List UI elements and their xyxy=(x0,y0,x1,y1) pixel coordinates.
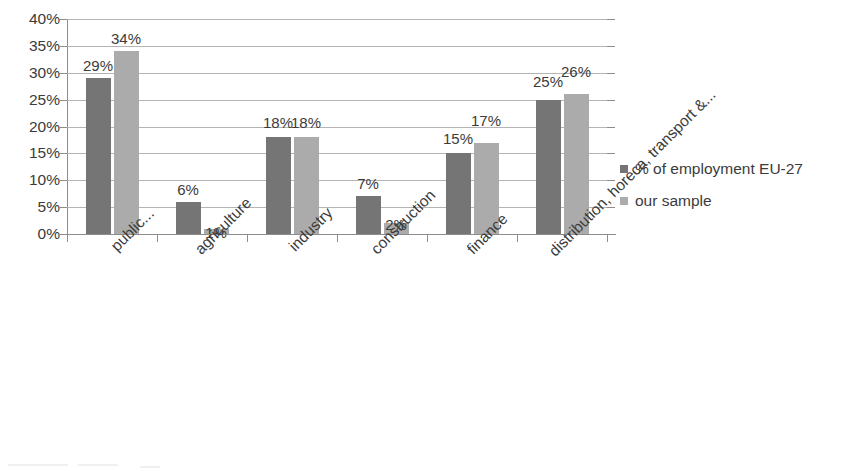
y-axis-tick-right xyxy=(607,73,615,74)
bar-data-label: 18% xyxy=(263,115,293,130)
plot-area: 29%34%6%1%18%18%7%2%15%17%25%26% xyxy=(67,19,607,234)
bar-data-label: 15% xyxy=(443,131,473,146)
x-axis-tick xyxy=(247,234,248,242)
y-axis-tick-label: 10% xyxy=(4,173,60,189)
y-axis-tick-right xyxy=(607,127,615,128)
scan-artifact xyxy=(140,466,160,468)
bar xyxy=(114,51,139,234)
y-axis-tick xyxy=(59,46,67,47)
bar xyxy=(176,202,201,234)
legend-label: our sample xyxy=(635,193,712,209)
y-axis-tick-label: 30% xyxy=(4,65,60,81)
bar-data-label: 18% xyxy=(291,115,321,130)
y-axis-tick xyxy=(59,180,67,181)
x-axis-tick xyxy=(607,234,608,242)
x-axis-tick xyxy=(337,234,338,242)
bar-data-label: 6% xyxy=(177,182,199,197)
y-axis-tick-right xyxy=(607,100,615,101)
y-axis-tick-label: 40% xyxy=(4,11,60,27)
bar-data-label: 29% xyxy=(83,58,113,73)
scan-artifact xyxy=(78,464,118,466)
x-axis-tick xyxy=(517,234,518,242)
y-axis-tick-label: 20% xyxy=(4,119,60,135)
bar-data-label: 7% xyxy=(357,176,379,191)
legend-swatch-icon xyxy=(620,165,628,173)
y-axis-tick xyxy=(59,73,67,74)
x-axis-tick xyxy=(427,234,428,242)
y-axis-tick-label: 15% xyxy=(4,146,60,162)
x-axis-tick xyxy=(67,234,68,242)
y-axis-tick-label: 5% xyxy=(4,199,60,215)
gridline xyxy=(67,19,607,20)
y-axis-tick-label: 35% xyxy=(4,38,60,54)
y-axis-tick-right xyxy=(607,46,615,47)
gridline xyxy=(67,73,607,74)
bar-data-label: 17% xyxy=(471,113,501,128)
bar xyxy=(536,100,561,234)
x-axis-tick xyxy=(157,234,158,242)
y-axis-tick xyxy=(59,207,67,208)
y-axis-tick xyxy=(59,100,67,101)
gridline xyxy=(67,100,607,101)
y-axis-tick xyxy=(59,127,67,128)
gridline xyxy=(67,153,607,154)
y-axis-tick-right xyxy=(607,19,615,20)
bar-data-label: 26% xyxy=(561,64,591,79)
bar xyxy=(446,153,471,234)
legend-swatch-icon xyxy=(620,197,628,205)
bar-data-label: 34% xyxy=(111,31,141,46)
bar xyxy=(266,137,291,234)
y-axis-labels: 0%5%10%15%20%25%30%35%40% xyxy=(0,19,60,234)
bar xyxy=(356,196,381,234)
gridline xyxy=(67,46,607,47)
y-axis-tick-label: 0% xyxy=(4,226,60,242)
y-axis-tick xyxy=(59,19,67,20)
scan-artifact xyxy=(8,464,68,466)
y-axis-tick-label: 25% xyxy=(4,92,60,108)
legend-label: % of employment EU-27 xyxy=(635,161,803,177)
chart-legend: % of employment EU-27our sample xyxy=(620,160,835,224)
legend-item[interactable]: our sample xyxy=(620,192,835,210)
bar-data-label: 25% xyxy=(533,74,563,89)
gridline xyxy=(67,180,607,181)
bar xyxy=(86,78,111,234)
y-axis-tick xyxy=(59,153,67,154)
x-axis-line xyxy=(58,234,616,235)
bar-chart: 0%5%10%15%20%25%30%35%40% 29%34%6%1%18%1… xyxy=(0,0,841,471)
y-axis-tick-right xyxy=(607,153,615,154)
legend-item[interactable]: % of employment EU-27 xyxy=(620,160,835,178)
gridline xyxy=(67,127,607,128)
